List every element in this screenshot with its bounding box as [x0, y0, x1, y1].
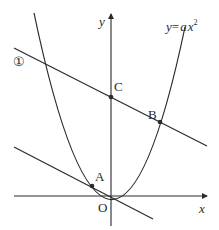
point-a-label: A — [95, 169, 105, 184]
point-c-label: C — [114, 79, 123, 94]
point-b-label: B — [148, 107, 157, 122]
parabola-curve — [34, 13, 185, 200]
line-1-label: ① — [13, 54, 25, 69]
line-through-a-and-origin — [14, 147, 153, 219]
point-c — [109, 95, 114, 100]
x-axis-label: x — [198, 201, 205, 216]
point-b — [158, 120, 163, 125]
curve-label: y=ax2 — [164, 18, 197, 34]
y-axis-label: y — [97, 14, 105, 29]
point-a — [90, 184, 95, 189]
origin-label: O — [98, 200, 107, 215]
parabola-diagram: y x O A B C ① y=ax2 — [0, 0, 219, 230]
